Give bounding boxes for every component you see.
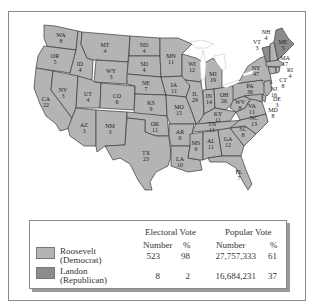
state-ev-label: 5 [282,45,285,51]
state-ev-label: 3 [83,128,86,134]
candidate-name: Landon (Republican) [60,267,107,285]
state-ev-label: 3 [110,74,113,80]
state-ev-label: 13 [251,121,257,127]
state-ev-label: 5 [54,59,57,65]
state-ev-label: 4 [79,67,82,73]
democrat-swatch [36,247,55,259]
popular-vote-header: Popular Vote [225,227,271,237]
state-ev-label: 8 [272,113,275,119]
state-ev-label: 3 [109,129,112,135]
popular-number-header: Number [216,240,246,250]
pv-percent: 61 [264,251,277,261]
state-ev-label: 14 [206,99,212,105]
state-ev-label: 12 [189,67,195,73]
state-ev-label: 3 [62,93,65,99]
state-ev-label: 8 [282,83,285,89]
state-ev-label: 11 [168,59,174,65]
state-ev-label: 4 [265,35,268,41]
state-ev-label: 11 [208,144,214,150]
state-ev-label: 11 [249,109,255,115]
republican-swatch [36,267,55,279]
state-ev-label: 7 [145,86,148,92]
ev-percent: 98 [176,251,190,261]
state-ev-label: 47 [253,71,259,77]
state-ev-label: 6 [116,99,119,105]
legend-table: Electoral Vote Popular Vote Number % Num… [29,220,287,289]
ev-number: 523 [142,251,160,261]
state-ev-label: 8 [242,132,245,138]
state-ev-label: 8 [239,105,242,111]
state-ev-label: 26 [221,98,227,104]
pv-percent: 37 [264,271,277,281]
state-FL [208,156,252,190]
electoral-percent-header: % [183,240,191,250]
state-ev-label: 4 [87,97,90,103]
candidate-name: Roosevelt (Democrat) [60,247,101,265]
state-ev-label: 4 [143,48,146,54]
state-ev-label: 11 [209,127,215,133]
ev-percent: 2 [176,271,190,281]
electoral-number-header: Number [143,240,173,250]
ev-number: 8 [142,271,160,281]
state-ev-label: 11 [171,88,177,94]
state-ev-label: 9 [150,106,153,112]
state-ev-label: 7 [238,175,241,181]
party-label: (Republican) [60,275,107,285]
electoral-vote-header: Electoral Vote [145,227,196,237]
state-ev-label: 3 [256,45,259,51]
state-ev-label: 15 [176,110,182,116]
state-ev-label: 4 [143,67,146,73]
state-ev-label: 36 [247,89,253,95]
state-ev-label: 4 [104,48,107,54]
state-ev-label: 4 [289,73,292,79]
state-RI [276,67,280,73]
party-label: (Democrat) [60,255,101,265]
state-ev-label: 11 [152,127,158,133]
state-ev-label: 23 [143,156,149,162]
popular-percent-header: % [270,240,278,250]
state-ev-label: 19 [210,77,216,83]
state-ev-label: 9 [195,146,198,152]
state-ev-label: 9 [179,135,182,141]
state-ev-label: 12 [225,142,231,148]
state-DE [262,94,266,102]
pv-number: 27,757,333 [206,251,256,261]
pv-number: 16,684,231 [206,271,256,281]
state-ev-label: 8 [60,38,63,44]
state-ev-label: 22 [43,102,49,108]
state-ev-label: 29 [192,97,198,103]
state-ev-label: 10 [177,162,183,168]
